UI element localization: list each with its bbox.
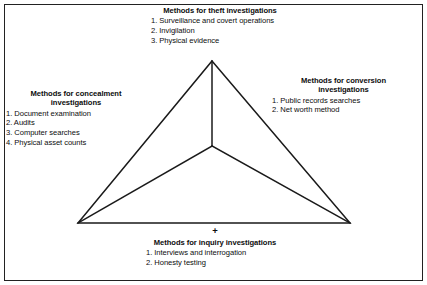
concealment-item-4: 4. Physical asset counts: [6, 138, 146, 148]
concealment-item-2: 2. Audits: [6, 118, 146, 128]
theft-item-3: 3. Physical evidence: [151, 36, 315, 46]
inquiry-heading: Methods for inquiry investigations: [120, 238, 310, 247]
fraud-triangle-figure: Methods for theft investigations 1. Surv…: [0, 0, 427, 285]
theft-item-1: 1. Surveillance and covert operations: [151, 16, 315, 26]
block-inquiry-investigations: Methods for inquiry investigations 1. In…: [120, 238, 310, 268]
concealment-heading-line1: Methods for concealment: [6, 89, 146, 98]
inquiry-item-1: 1. Interviews and interrogation: [146, 248, 310, 258]
concealment-list: 1. Document examination 2. Audits 3. Com…: [6, 109, 146, 147]
conversion-heading-line2: investigations: [266, 85, 421, 94]
concealment-item-1: 1. Document examination: [6, 109, 146, 119]
spoke-to-bottom-right: [212, 146, 350, 223]
conversion-list: 1. Public records searches 2. Net worth …: [272, 96, 421, 115]
plus-icon: +: [120, 226, 310, 236]
block-concealment-investigations: Methods for concealment investigations 1…: [6, 89, 146, 147]
theft-list: 1. Surveillance and covert operations 2.…: [151, 16, 315, 45]
inquiry-item-2: 2. Honesty testing: [146, 258, 310, 268]
inquiry-list: 1. Interviews and interrogation 2. Hones…: [146, 248, 310, 267]
theft-item-2: 2. Invigilation: [151, 26, 315, 36]
block-conversion-investigations: Methods for conversion investigations 1.…: [266, 76, 421, 115]
conversion-heading-line1: Methods for conversion: [266, 76, 421, 85]
conversion-item-1: 1. Public records searches: [272, 96, 421, 106]
spoke-to-bottom-left: [78, 146, 212, 223]
concealment-heading-line2: investigations: [6, 98, 146, 107]
block-theft-investigations: Methods for theft investigations 1. Surv…: [125, 6, 315, 45]
conversion-item-2: 2. Net worth method: [272, 105, 421, 115]
concealment-item-3: 3. Computer searches: [6, 128, 146, 138]
theft-heading: Methods for theft investigations: [125, 6, 315, 15]
